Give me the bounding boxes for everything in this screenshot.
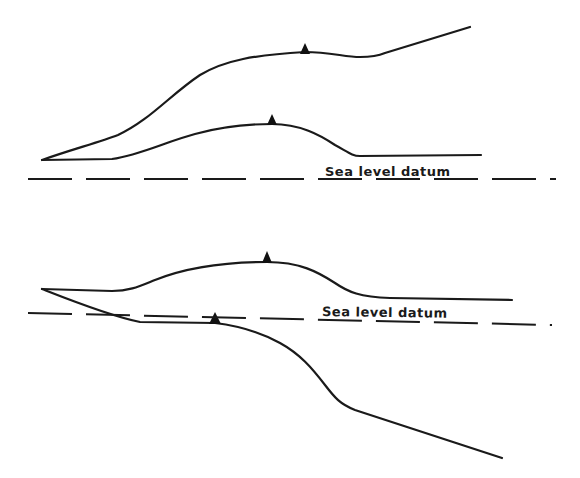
survey-marker-icon — [262, 251, 272, 263]
bottom-datum-label: Sea level datum — [322, 304, 448, 321]
survey-marker-icon — [300, 43, 310, 54]
top-datum-label: Sea level datum — [325, 164, 451, 179]
survey-marker-icon — [267, 114, 277, 125]
bottom-upper-profile — [42, 262, 512, 300]
top-upper-profile — [42, 27, 470, 160]
top-lower-profile — [42, 124, 481, 160]
bottom-panel: Sea level datum — [28, 251, 552, 458]
bottom-sea-level-datum-line — [28, 313, 552, 325]
diagram-canvas: Sea level datum Sea level datum — [0, 0, 580, 478]
top-panel: Sea level datum — [28, 27, 556, 179]
